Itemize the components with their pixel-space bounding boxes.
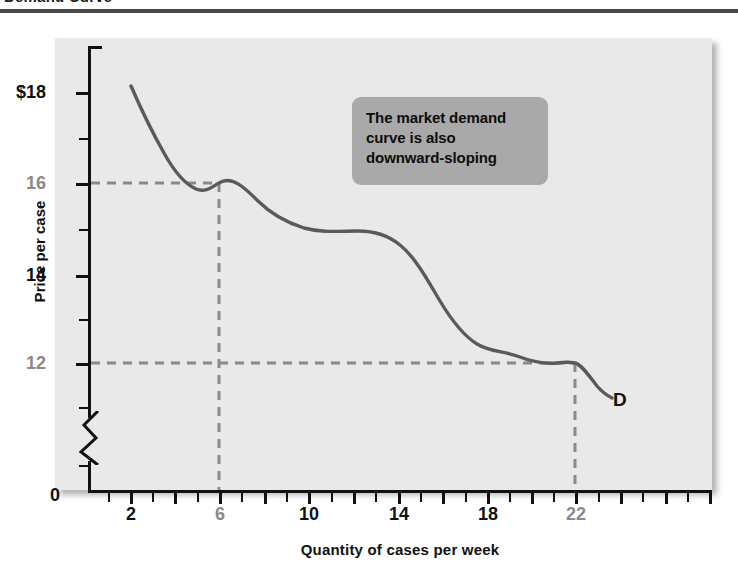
x-tick-3 bbox=[152, 490, 154, 502]
y-tick-break-lower bbox=[79, 465, 91, 467]
x-tick-15 bbox=[420, 490, 422, 502]
y-tick-14 bbox=[76, 275, 91, 278]
x-tick-9 bbox=[286, 490, 288, 502]
header-title: Demand Curve bbox=[4, 0, 112, 5]
y-axis-label-18: $18 bbox=[0, 83, 46, 101]
x-axis-label-18: 18 bbox=[466, 505, 510, 523]
x-tick-28 bbox=[709, 490, 712, 504]
x-tick-17 bbox=[465, 490, 467, 502]
x-tick-14 bbox=[398, 490, 401, 504]
x-axis-label-14: 14 bbox=[377, 505, 421, 523]
x-tick-20 bbox=[531, 490, 534, 504]
x-tick-11 bbox=[331, 490, 333, 502]
x-tick-22 bbox=[575, 490, 578, 504]
x-tick-8 bbox=[264, 490, 267, 504]
callout-box: The market demand curve is also downward… bbox=[352, 97, 548, 185]
x-tick-5 bbox=[197, 490, 199, 502]
x-tick-27 bbox=[687, 490, 689, 502]
y-axis-label-12: 12 bbox=[0, 354, 46, 372]
x-tick-12 bbox=[353, 490, 356, 504]
y-axis-break-icon bbox=[76, 411, 102, 465]
y-axis-title: Price per case bbox=[31, 177, 48, 327]
y-axis-top-cap bbox=[88, 46, 102, 49]
y-tick-18 bbox=[76, 92, 91, 95]
x-axis-title: Quantity of cases per week bbox=[88, 541, 712, 558]
demand-curve-label: D bbox=[613, 389, 627, 411]
callout-text: The market demand curve is also downward… bbox=[366, 108, 548, 168]
x-tick-16 bbox=[442, 490, 445, 504]
y-tick-17 bbox=[79, 138, 91, 140]
x-axis-label-6: 6 bbox=[198, 505, 242, 523]
x-tick-6 bbox=[219, 490, 222, 504]
x-tick-18 bbox=[487, 490, 490, 504]
y-tick-16 bbox=[76, 183, 91, 186]
x-tick-21 bbox=[553, 490, 555, 502]
x-tick-25 bbox=[642, 490, 644, 502]
x-tick-7 bbox=[241, 490, 243, 502]
y-tick-15 bbox=[79, 229, 91, 231]
x-tick-13 bbox=[375, 490, 377, 502]
x-tick-10 bbox=[308, 490, 311, 504]
x-tick-19 bbox=[509, 490, 511, 502]
origin-label: 0 bbox=[50, 485, 60, 506]
y-tick-12 bbox=[76, 363, 91, 366]
x-tick-24 bbox=[620, 490, 623, 504]
x-tick-4 bbox=[174, 490, 177, 504]
x-axis-label-22: 22 bbox=[554, 505, 598, 523]
x-tick-2 bbox=[130, 490, 133, 504]
x-axis-label-2: 2 bbox=[109, 505, 153, 523]
demand-curve-figure: $18 16 14 12 2 6 10 14 18 22 0 Price per… bbox=[0, 13, 738, 587]
y-tick-13 bbox=[79, 319, 91, 321]
x-axis-label-10: 10 bbox=[287, 505, 331, 523]
y-tick-11 bbox=[79, 407, 91, 409]
x-tick-1 bbox=[108, 490, 110, 502]
x-tick-26 bbox=[665, 490, 668, 504]
x-tick-23 bbox=[598, 490, 600, 502]
